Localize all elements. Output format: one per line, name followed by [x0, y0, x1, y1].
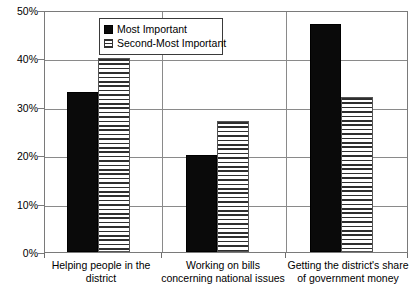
category-label-line: Helping people in the	[36, 259, 166, 272]
y-tick-label: 50%	[0, 5, 38, 17]
legend-item-label: Most Important	[117, 23, 187, 35]
bar-most-important	[310, 24, 341, 252]
legend-item: Most Important	[104, 22, 218, 36]
x-axis-category-label: Working on bills concerning national iss…	[155, 259, 291, 285]
y-tick-label: 10%	[0, 199, 38, 211]
category-label-line: concerning national issues	[155, 272, 291, 285]
y-tick-label: 0%	[0, 247, 38, 259]
category-separator	[286, 12, 287, 252]
bar-second-most-important	[98, 58, 130, 252]
category-label-line: district	[36, 272, 166, 285]
bar-second-most-important	[341, 97, 373, 252]
x-axis-category-label: Helping people in the district	[36, 259, 166, 285]
category-label-line: Getting the district's share	[281, 259, 415, 272]
x-axis-tick	[161, 253, 162, 258]
striped-swatch-icon	[104, 39, 113, 48]
category-label-line: of government money	[281, 272, 415, 285]
bar-most-important	[67, 92, 98, 252]
x-axis-tick	[407, 253, 408, 258]
bar-second-most-important	[217, 121, 249, 252]
bar-chart: 50% 40% 30% 20% 10% 0%	[0, 0, 416, 295]
bar-most-important	[186, 155, 217, 252]
y-tick-label: 20%	[0, 150, 38, 162]
legend-item-label: Second-Most Important	[117, 37, 226, 49]
x-axis-tick	[44, 253, 45, 258]
chart-legend: Most Important Second-Most Important	[99, 18, 223, 55]
x-axis-category-label: Getting the district's share of governme…	[281, 259, 415, 285]
y-tick-label: 30%	[0, 102, 38, 114]
x-axis-tick	[285, 253, 286, 258]
solid-black-swatch-icon	[104, 25, 113, 34]
y-tick-label: 40%	[0, 53, 38, 65]
category-label-line: Working on bills	[155, 259, 291, 272]
legend-item: Second-Most Important	[104, 36, 218, 50]
